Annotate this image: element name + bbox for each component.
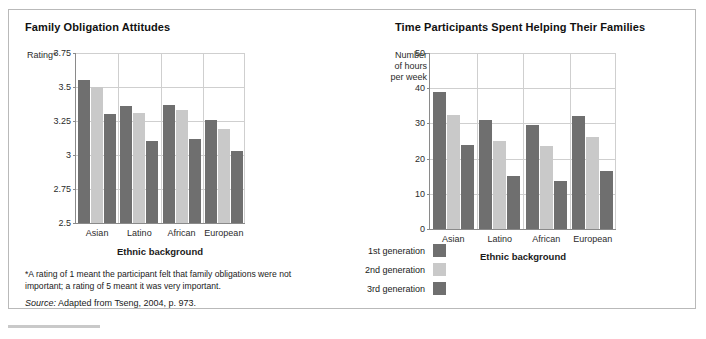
y-tick-label: 3.75 — [53, 48, 71, 58]
y-tick-mark — [73, 87, 76, 88]
y-tick-mark — [73, 189, 76, 190]
bar-asian-series-2 — [91, 87, 103, 223]
y-tick-label: 3.25 — [53, 116, 71, 126]
bar-latino-series-1 — [479, 120, 492, 229]
y-tick-label: 0 — [420, 224, 425, 234]
plot-area-right: 01020304050 AsianLatinoAfricanEuropean — [429, 53, 616, 230]
source-text: Adapted from Tseng, 2004, p. 973. — [58, 298, 196, 308]
bar-asian-series-1 — [78, 80, 90, 223]
bar-group-right — [430, 53, 616, 229]
x-tick-label-african: African — [532, 234, 560, 244]
y-tick-label: 30 — [415, 118, 425, 128]
y-tick-mark — [427, 123, 430, 124]
y-axis-label-left: Rating* — [27, 50, 57, 61]
x-tick-label-asian: Asian — [86, 228, 109, 238]
bar-european-series-3 — [600, 171, 613, 229]
bar-latino-series-1 — [120, 106, 132, 223]
chart-title-right: Time Participants Spent Helping Their Fa… — [395, 21, 645, 33]
figure-frame: Family Obligation Attitudes Rating* 2.52… — [8, 9, 696, 309]
bar-latino-series-2 — [493, 141, 506, 229]
bar-asian-series-1 — [433, 92, 446, 229]
x-tick-label-latino: Latino — [487, 234, 512, 244]
y-tick-mark — [427, 159, 430, 160]
y-tick-label: 2.75 — [53, 184, 71, 194]
plot-area-left: 2.52.7533.253.53.75 AsianLatinoAfricanEu… — [75, 53, 245, 224]
y-tick-label: 3.5 — [58, 82, 71, 92]
bar-european-series-1 — [572, 116, 585, 229]
y-tick-label: 20 — [415, 154, 425, 164]
y-tick-mark — [73, 53, 76, 54]
y-tick-label: 2.5 — [58, 218, 71, 228]
y-axis-label-line-2: per week — [383, 72, 427, 83]
x-tick-label-african: African — [168, 228, 196, 238]
bar-african-series-2 — [176, 110, 188, 223]
bar-african-series-1 — [526, 125, 539, 229]
page-rule — [8, 325, 100, 328]
x-axis-title-right: Ethnic background — [480, 251, 566, 262]
chart-title-left: Family Obligation Attitudes — [25, 21, 170, 33]
x-tick-label-latino: Latino — [127, 228, 152, 238]
x-tick-label-asian: Asian — [442, 234, 465, 244]
chart-panel-family-obligation-attitudes: Family Obligation Attitudes Rating* 2.52… — [9, 10, 379, 308]
bar-asian-series-3 — [104, 114, 116, 223]
bar-african-series-2 — [540, 146, 553, 229]
source-label: Source: — [25, 298, 56, 308]
y-tick-label: 50 — [415, 48, 425, 58]
bar-european-series-1 — [205, 120, 217, 223]
bar-african-series-3 — [189, 139, 201, 223]
footnote-text: *A rating of 1 meant the participant fel… — [25, 268, 325, 292]
y-tick-label: 10 — [415, 189, 425, 199]
bar-african-series-1 — [163, 105, 175, 223]
x-tick-label-european: European — [204, 228, 243, 238]
y-tick-label: 40 — [415, 83, 425, 93]
y-tick-label: 3 — [66, 150, 71, 160]
bar-european-series-2 — [586, 137, 599, 229]
bar-latino-series-3 — [507, 176, 520, 229]
y-tick-mark — [73, 223, 76, 224]
source-line: Source: Adapted from Tseng, 2004, p. 973… — [25, 298, 196, 308]
bar-latino-series-3 — [146, 141, 158, 223]
y-tick-mark — [427, 53, 430, 54]
bar-asian-series-3 — [461, 145, 474, 229]
y-tick-mark — [73, 121, 76, 122]
y-tick-mark — [427, 194, 430, 195]
y-axis-label-line-1: of hours — [383, 61, 427, 72]
bar-european-series-2 — [218, 129, 230, 223]
chart-panel-time-helping-families: Time Participants Spent Helping Their Fa… — [379, 10, 697, 308]
y-tick-mark — [427, 88, 430, 89]
footnote-body: *A rating of 1 meant the participant fel… — [25, 269, 291, 291]
x-axis-title-left: Ethnic background — [117, 246, 203, 257]
bar-european-series-3 — [231, 151, 243, 223]
y-tick-mark — [427, 229, 430, 230]
y-tick-mark — [73, 155, 76, 156]
x-tick-label-european: European — [573, 234, 612, 244]
bar-group-left — [76, 53, 245, 223]
bar-asian-series-2 — [447, 115, 460, 229]
bar-latino-series-2 — [133, 113, 145, 223]
bar-african-series-3 — [554, 181, 567, 229]
